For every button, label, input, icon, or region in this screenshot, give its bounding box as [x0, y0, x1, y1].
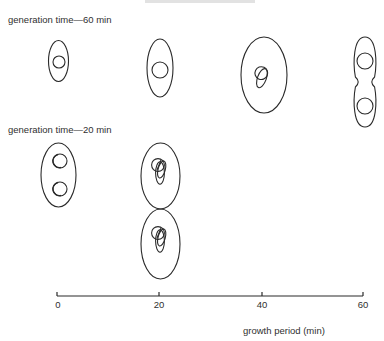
cell-outline	[141, 209, 180, 279]
nucleoid-circle	[357, 98, 373, 114]
replication-arc	[53, 183, 61, 196]
cell-1-2	[141, 209, 180, 279]
cell-outline	[141, 143, 180, 209]
cell-1-1	[141, 143, 180, 209]
cell-0-2	[241, 37, 287, 113]
nucleoid-circle	[53, 56, 65, 68]
cell-outline	[147, 39, 173, 97]
cell-outline	[41, 143, 76, 207]
tick-label: 60	[358, 299, 369, 310]
tick-label: 0	[55, 299, 60, 310]
cell-0-3	[354, 37, 376, 127]
nucleoid-circle	[357, 53, 373, 69]
cell-1-0	[41, 143, 76, 207]
axis-label: growth period (min)	[243, 325, 325, 336]
tick-label: 20	[154, 299, 165, 310]
replication-arc	[53, 155, 61, 168]
cell-0-0	[49, 41, 69, 82]
nucleoid-circle	[152, 62, 168, 78]
tick-label: 40	[257, 299, 268, 310]
cell-outline	[241, 37, 287, 113]
cell-outline	[49, 41, 69, 82]
cell-0-1	[147, 39, 173, 97]
cell-division-diagram	[0, 0, 384, 341]
